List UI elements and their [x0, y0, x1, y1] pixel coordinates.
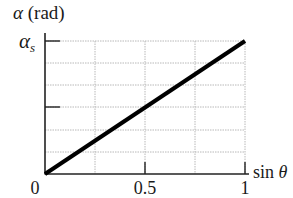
- y-axis-symbol: α: [13, 2, 23, 23]
- x-tick-label-1: 1: [241, 178, 250, 198]
- x-tick-label-0-5: 0.5: [134, 178, 157, 198]
- x-tick-label-0: 0: [31, 178, 40, 198]
- chart-canvas: [0, 0, 293, 198]
- y-tick-symbol: α: [19, 29, 30, 53]
- y-axis-unit: (rad): [28, 2, 65, 23]
- y-tick-label-alpha-s: αs: [19, 29, 35, 56]
- x-axis-func: sin: [253, 162, 274, 182]
- y-axis-label: α (rad): [13, 2, 65, 24]
- x-axis-symbol: θ: [279, 162, 288, 182]
- x-axis-label: sin θ: [253, 162, 287, 183]
- y-tick-subscript: s: [30, 40, 35, 55]
